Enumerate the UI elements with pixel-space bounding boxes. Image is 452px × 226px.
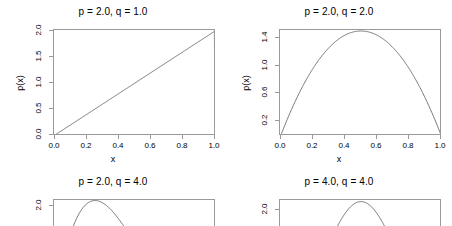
x-tick-label: 0.2 xyxy=(80,141,91,150)
y-tick-label-text: 0.0 xyxy=(35,128,43,139)
x-tick-mark xyxy=(150,135,151,139)
x-tick-label: 0.8 xyxy=(176,141,187,150)
y-axis-title: p(x) xyxy=(239,68,253,98)
density-curve xyxy=(280,200,441,226)
x-tick-label: 0.6 xyxy=(144,141,155,150)
x-tick-mark xyxy=(86,135,87,139)
plot-area xyxy=(279,29,441,135)
y-tick-label: 0.2 xyxy=(258,115,272,125)
y-axis-title-text: p(x) xyxy=(241,75,251,91)
plot-area xyxy=(53,199,215,226)
y-tick-label-text: 2.0 xyxy=(35,24,43,35)
plot-panel-2: p = 2.0, q = 2.00.20.61.01.40.00.20.40.6… xyxy=(226,0,452,170)
panel-title: p = 4.0, q = 4.0 xyxy=(226,176,452,188)
y-tick-label-text: 1.0 xyxy=(261,59,269,70)
y-tick-label-text: 2.0 xyxy=(35,199,43,210)
x-tick-label: 0.0 xyxy=(48,141,59,150)
y-tick-label: 2.0 xyxy=(32,25,46,35)
plot-area xyxy=(279,199,441,226)
x-axis-title: x xyxy=(0,154,226,164)
x-tick-label: 0.2 xyxy=(306,141,317,150)
y-axis-title-text: p(x) xyxy=(15,75,25,91)
y-tick-mark xyxy=(49,82,53,83)
y-tick-label: 0.6 xyxy=(258,87,272,97)
y-tick-label: 0.5 xyxy=(32,103,46,113)
y-tick-mark xyxy=(275,65,279,66)
x-tick-mark xyxy=(344,135,345,139)
y-tick-mark xyxy=(49,108,53,109)
x-tick-label: 0.0 xyxy=(274,141,285,150)
y-tick-mark xyxy=(275,92,279,93)
plot-panel-3: p = 2.0, q = 4.02.00.00.20.40.60.81.0xp(… xyxy=(0,170,226,226)
y-tick-label-text: 0.2 xyxy=(261,115,269,126)
y-tick-label-text: 1.4 xyxy=(261,31,269,42)
y-tick-label: 1.0 xyxy=(258,60,272,70)
x-tick-label: 0.4 xyxy=(338,141,349,150)
y-tick-label-text: 2.0 xyxy=(261,204,269,215)
y-tick-label-text: 1.5 xyxy=(35,50,43,61)
y-tick-label-text: 0.5 xyxy=(35,102,43,113)
x-tick-mark xyxy=(182,135,183,139)
y-tick-label-text: 0.6 xyxy=(261,87,269,98)
x-tick-mark xyxy=(118,135,119,139)
y-tick-label: 2.0 xyxy=(32,200,46,210)
density-curve xyxy=(54,30,215,135)
plot-panel-4: p = 4.0, q = 4.02.00.00.20.40.60.81.0xp(… xyxy=(226,170,452,226)
x-tick-label: 0.6 xyxy=(370,141,381,150)
y-tick-mark xyxy=(49,134,53,135)
y-tick-label-text: 1.0 xyxy=(35,76,43,87)
y-tick-label: 2.0 xyxy=(258,204,272,214)
x-tick-label: 1.0 xyxy=(434,141,445,150)
y-tick-label: 1.4 xyxy=(258,32,272,42)
plot-panel-1: p = 2.0, q = 1.00.00.51.01.52.00.00.20.4… xyxy=(0,0,226,170)
y-tick-mark xyxy=(275,120,279,121)
x-tick-mark xyxy=(214,135,215,139)
panel-title: p = 2.0, q = 2.0 xyxy=(226,6,452,18)
y-tick-label: 1.0 xyxy=(32,77,46,87)
x-tick-mark xyxy=(312,135,313,139)
y-tick-mark xyxy=(49,30,53,31)
x-tick-label: 1.0 xyxy=(208,141,219,150)
y-tick-mark xyxy=(275,37,279,38)
y-tick-label: 0.0 xyxy=(32,129,46,139)
panel-title: p = 2.0, q = 4.0 xyxy=(0,176,226,188)
x-axis-title: x xyxy=(226,154,452,164)
x-tick-label: 0.8 xyxy=(402,141,413,150)
density-curve xyxy=(54,200,215,226)
density-curve xyxy=(280,30,441,135)
x-tick-mark xyxy=(376,135,377,139)
x-tick-mark xyxy=(408,135,409,139)
y-tick-mark xyxy=(49,56,53,57)
x-tick-label: 0.4 xyxy=(112,141,123,150)
x-tick-mark xyxy=(280,135,281,139)
y-tick-mark xyxy=(275,209,279,210)
x-tick-mark xyxy=(440,135,441,139)
beta-density-figure: p = 2.0, q = 1.00.00.51.01.52.00.00.20.4… xyxy=(0,0,452,226)
y-axis-title: p(x) xyxy=(13,68,27,98)
panel-title: p = 2.0, q = 1.0 xyxy=(0,6,226,18)
y-tick-label: 1.5 xyxy=(32,51,46,61)
y-tick-mark xyxy=(49,205,53,206)
x-tick-mark xyxy=(54,135,55,139)
plot-area xyxy=(53,29,215,135)
